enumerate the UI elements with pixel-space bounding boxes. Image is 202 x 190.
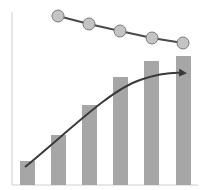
line-series xyxy=(52,10,189,49)
bar-5 xyxy=(144,61,159,185)
line-marker-5 xyxy=(177,37,189,49)
line-marker-4 xyxy=(146,32,158,44)
bar-6 xyxy=(176,56,191,185)
line-marker-3 xyxy=(114,25,126,37)
line-marker-2 xyxy=(83,18,95,30)
bar-series xyxy=(20,56,191,185)
line-marker-1 xyxy=(52,10,64,22)
chart-svg xyxy=(0,0,202,190)
trend-arrow xyxy=(25,73,185,167)
